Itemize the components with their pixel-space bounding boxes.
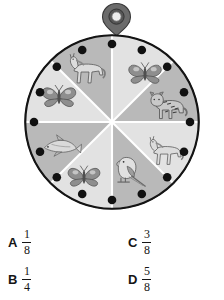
answer-letter-c: C xyxy=(128,236,137,249)
answer-letter-b: B xyxy=(8,273,17,286)
probability-spinner-figure xyxy=(0,0,224,222)
spinner-wheel[interactable] xyxy=(25,35,199,209)
answer-choice-c[interactable]: C 3 8 xyxy=(128,228,151,257)
rim-dot xyxy=(186,118,195,127)
fraction-denominator: 8 xyxy=(143,244,151,257)
answer-choice-a[interactable]: A 1 8 xyxy=(8,228,31,257)
spinner-wheel-graphic xyxy=(0,0,224,222)
rim-dot xyxy=(53,173,62,182)
rim-dot xyxy=(78,46,87,55)
rim-dot xyxy=(36,148,45,157)
spinner-pointer-icon xyxy=(103,4,131,36)
answer-choice-b[interactable]: B 1 4 xyxy=(8,265,31,294)
answer-fraction-a: 1 8 xyxy=(22,228,31,257)
rim-dot xyxy=(108,196,117,205)
answer-choices: A 1 8 B 1 4 C 3 8 D 5 8 xyxy=(0,226,224,300)
rim-dot xyxy=(180,88,189,97)
answer-letter-a: A xyxy=(8,236,17,249)
rim-dot xyxy=(36,88,45,97)
rim-dot xyxy=(138,190,147,199)
fraction-numerator: 1 xyxy=(23,228,31,241)
fraction-denominator: 4 xyxy=(23,281,31,294)
rim-dot xyxy=(53,63,62,72)
rim-dot xyxy=(180,148,189,157)
rim-dot xyxy=(163,63,172,72)
answer-fraction-d: 5 8 xyxy=(142,265,151,294)
fraction-numerator: 5 xyxy=(143,265,151,278)
rim-dot xyxy=(78,190,87,199)
answer-choice-d[interactable]: D 5 8 xyxy=(128,265,151,294)
fraction-numerator: 1 xyxy=(23,265,31,278)
rim-dot xyxy=(108,40,117,49)
answer-fraction-b: 1 4 xyxy=(22,265,31,294)
rim-dot xyxy=(163,173,172,182)
fraction-denominator: 8 xyxy=(143,281,151,294)
rim-dot xyxy=(30,118,39,127)
fraction-numerator: 3 xyxy=(143,228,151,241)
rim-dot xyxy=(138,46,147,55)
fraction-denominator: 8 xyxy=(23,244,31,257)
wheel-dividers xyxy=(26,36,198,208)
answer-fraction-c: 3 8 xyxy=(142,228,151,257)
answer-letter-d: D xyxy=(128,273,137,286)
